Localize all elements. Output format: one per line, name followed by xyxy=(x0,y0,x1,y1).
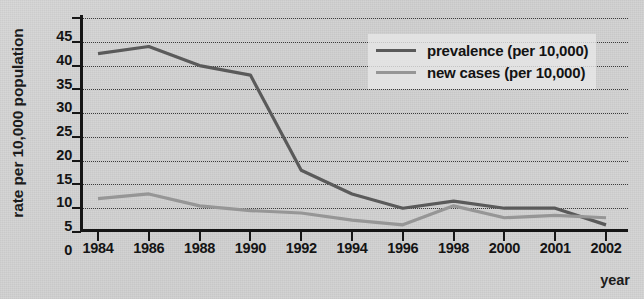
y-axis-tick-label: 35 xyxy=(56,76,72,92)
legend-item-prevalence: prevalence (per 10,000) xyxy=(376,39,588,61)
x-axis-tick-label: 1988 xyxy=(184,240,215,256)
y-axis-tick-label: 40 xyxy=(56,52,72,68)
x-axis-tick-label: 2002 xyxy=(590,240,621,256)
y-axis-line xyxy=(80,15,83,232)
legend-item-new-cases: new cases (per 10,000) xyxy=(376,61,588,83)
x-axis-tick-label: 2001 xyxy=(540,240,571,256)
y-axis-title-text: rate per 10,000 population xyxy=(9,28,27,218)
y-axis-tick-label: 0 xyxy=(64,242,72,258)
x-axis-tick-label: 1984 xyxy=(82,240,113,256)
y-axis-title: rate per 10,000 population xyxy=(0,0,36,245)
y-axis-tick-label: 15 xyxy=(56,171,72,187)
x-axis-tick-label: 1992 xyxy=(286,240,317,256)
y-axis-tick-label: 10 xyxy=(56,194,72,210)
x-axis-line xyxy=(80,229,628,232)
chart-legend: prevalence (per 10,000) new cases (per 1… xyxy=(368,34,596,89)
legend-label-prevalence: prevalence (per 10,000) xyxy=(427,42,588,59)
legend-swatch-new-cases xyxy=(376,71,416,74)
y-axis-tick-labels: 454035302520151050 xyxy=(36,18,76,232)
legend-label-new-cases: new cases (per 10,000) xyxy=(427,64,585,81)
x-axis-tick-label: 2000 xyxy=(489,240,520,256)
y-axis-tick-label: 20 xyxy=(56,147,72,163)
x-axis-tick-label: 1986 xyxy=(133,240,164,256)
legend-swatch-prevalence xyxy=(376,49,416,52)
x-axis-tick-label: 1998 xyxy=(438,240,469,256)
x-axis-tick-labels: 1984198619881990199219941996199820002001… xyxy=(80,240,628,264)
y-axis-tick-label: 5 xyxy=(64,218,72,234)
y-axis-tick-label: 45 xyxy=(56,28,72,44)
x-axis-title: year xyxy=(600,272,630,288)
x-axis-tick-label: 1990 xyxy=(235,240,266,256)
y-axis-tick-label: 30 xyxy=(56,99,72,115)
x-axis-tick-label: 1996 xyxy=(387,240,418,256)
x-axis-tick-label: 1994 xyxy=(336,240,367,256)
y-axis-tick-label: 25 xyxy=(56,123,72,139)
chart-figure: rate per 10,000 population 4540353025201… xyxy=(0,0,644,299)
